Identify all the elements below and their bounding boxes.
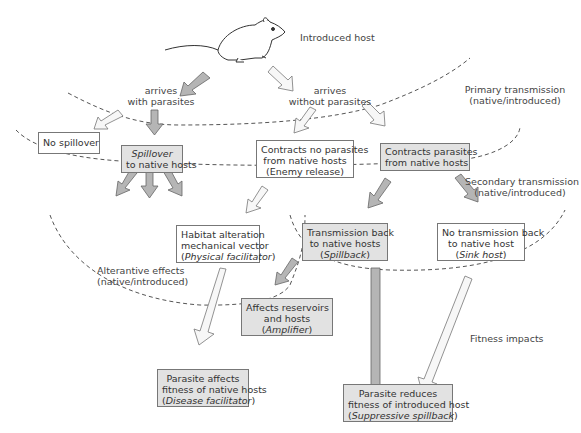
label-alternative-effects: Alterantive effects(native/introduced) [97, 265, 179, 287]
label-arrives-with-parasites: arriveswith parasites [121, 85, 201, 107]
arrow-sink-fitness [418, 276, 472, 392]
diagram-canvas [0, 0, 581, 433]
label-arrives-without-parasites: arriveswithout parasites [285, 85, 375, 107]
box-sink-host: No transmission backto native host (Sink… [437, 223, 525, 261]
label-secondary-transmission: Secondary transmission(native/introduced… [465, 176, 575, 198]
box-suppressive-spillback: Parasite reducesfitness of introduced ho… [343, 384, 453, 422]
arrow-to-spillback [368, 178, 391, 208]
box-amplifier: Affects reservoirsand hosts (Amplifier) [241, 298, 333, 336]
mouse-icon [165, 18, 285, 62]
arrow-physical [246, 186, 268, 213]
arrow-no-spillover [94, 110, 123, 129]
arrow-enemy-release [294, 107, 316, 133]
box-no-spillover: No spillover [38, 132, 100, 154]
box-spillover: Spilloverto native hosts [121, 145, 183, 173]
title-introduced-host: Introduced host [300, 32, 375, 43]
label-primary-transmission: Primary transmission(native/introduced) [455, 84, 575, 106]
arrow-spillback-amplifier [275, 258, 298, 285]
arrow-physical-facilitator [194, 268, 226, 345]
arrow-suppressive-spillback [363, 268, 388, 400]
box-contracts-parasites: Contracts parasitesfrom native hosts [380, 143, 470, 171]
box-disease-facilitator: Parasite affectsfitness of native hosts … [157, 369, 249, 407]
label-fitness-impacts: Fitness impacts [470, 333, 544, 344]
box-physical-facilitator: Habitat alterationmechanical vector (Phy… [176, 225, 260, 263]
box-spillback: Transmission backto native hosts (Spillb… [302, 223, 388, 261]
box-enemy-release: Contracts no parasitesfrom native hosts(… [256, 140, 354, 178]
